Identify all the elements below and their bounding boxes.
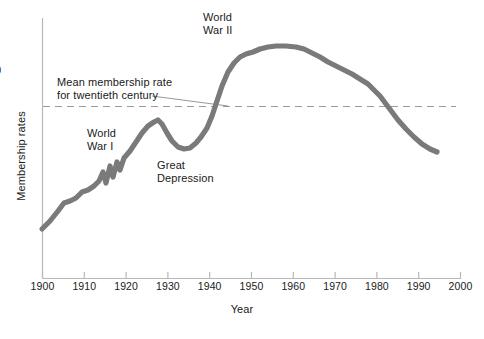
annotation-world-war-2: World War II [203,11,233,37]
x-axis-ticks [43,272,461,279]
y-axis-tick-label-0: 0 [0,64,1,77]
x-tick-1920: 1920 [106,280,146,292]
x-tick-1910: 1910 [64,280,104,292]
x-tick-1970: 1970 [315,280,355,292]
annotation-world-war-1: World War I [87,127,116,153]
x-tick-1980: 1980 [357,280,397,292]
x-tick-1940: 1940 [190,280,230,292]
membership-rates-chart: 0 Membership rates 1900 1910 1920 1930 1… [0,0,484,339]
x-tick-2000: 2000 [441,280,481,292]
annotation-great-depression: Great Depression [157,159,214,185]
x-tick-1930: 1930 [148,280,188,292]
x-tick-1900: 1900 [23,280,63,292]
y-axis-title: Membership rates [15,111,27,201]
x-tick-1950: 1950 [232,280,272,292]
x-tick-1990: 1990 [399,280,439,292]
x-axis-title: Year [0,303,484,315]
annotation-mean-membership-rate: Mean membership rate for twentieth centu… [57,76,172,102]
x-tick-1960: 1960 [273,280,313,292]
